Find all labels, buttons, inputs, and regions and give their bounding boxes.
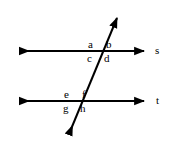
line-label-s: s: [155, 45, 159, 56]
angle-label-b: b: [106, 39, 112, 50]
geometry-diagram: a b c d e f g h s t: [0, 0, 171, 146]
angle-label-f: f: [82, 89, 86, 100]
angle-label-a: a: [88, 39, 93, 50]
angle-label-h: h: [80, 103, 86, 114]
angle-label-e: e: [64, 89, 69, 100]
geometry-canvas: [0, 0, 171, 146]
angle-label-d: d: [104, 53, 110, 64]
transversal-line: [69, 18, 117, 134]
angle-label-c: c: [87, 53, 92, 64]
angle-label-g: g: [63, 103, 69, 114]
line-label-t: t: [156, 95, 159, 106]
